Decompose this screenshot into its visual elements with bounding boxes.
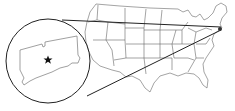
us-map <box>85 3 227 92</box>
us-locator-map <box>0 0 235 111</box>
state-lines <box>88 5 212 74</box>
connecticut-highlight <box>218 27 222 31</box>
callout-line-top <box>62 20 221 27</box>
us-outline <box>85 3 227 92</box>
